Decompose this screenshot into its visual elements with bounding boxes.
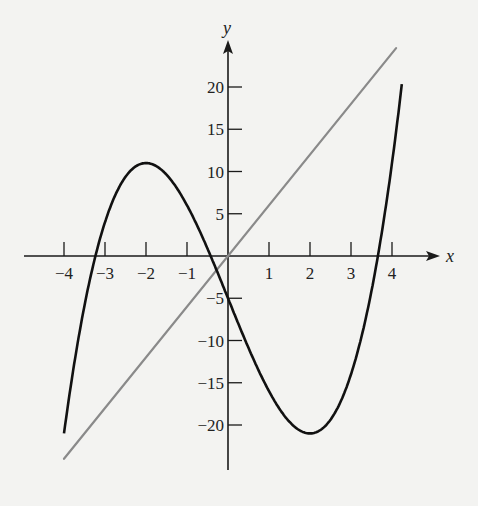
y-tick-label: −10 bbox=[197, 332, 224, 351]
plot-area: −4−3−2−11234−20−15−10−55101520 x y bbox=[0, 0, 478, 506]
x-tick-label: 1 bbox=[265, 264, 274, 283]
x-tick-label: 4 bbox=[388, 264, 397, 283]
x-tick-label: −3 bbox=[96, 264, 114, 283]
y-tick-label: 5 bbox=[216, 205, 225, 224]
y-tick-label: −20 bbox=[197, 416, 224, 435]
chart: −4−3−2−11234−20−15−10−55101520 x y bbox=[0, 0, 478, 506]
y-tick-label: −15 bbox=[197, 374, 224, 393]
x-tick-label: 2 bbox=[306, 264, 315, 283]
x-tick-label: −4 bbox=[55, 264, 74, 283]
y-tick-label: 10 bbox=[207, 163, 224, 182]
y-tick-label: −5 bbox=[206, 289, 224, 308]
y-axis-label: y bbox=[221, 18, 231, 38]
x-tick-label: −2 bbox=[137, 264, 155, 283]
line-series-y-6x bbox=[64, 48, 396, 459]
x-tick-label: −1 bbox=[178, 264, 196, 283]
y-tick-label: 15 bbox=[207, 120, 224, 139]
x-tick-label: 3 bbox=[347, 264, 356, 283]
y-tick-label: 20 bbox=[207, 78, 224, 97]
x-axis-label: x bbox=[445, 246, 454, 266]
cubic-curve bbox=[64, 84, 402, 433]
